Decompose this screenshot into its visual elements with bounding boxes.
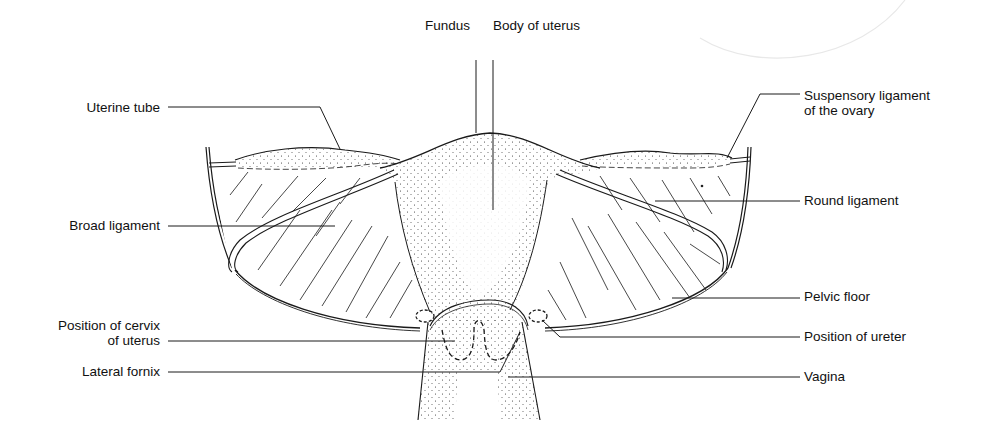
label-uterine-tube: Uterine tube — [86, 100, 160, 115]
label-round-ligament: Round ligament — [804, 193, 899, 208]
label-broad-ligament: Broad ligament — [69, 218, 160, 233]
ureter-right — [529, 310, 547, 322]
vagina — [418, 320, 540, 420]
pelvic-wall-right — [728, 147, 751, 268]
anatomy-diagram: Fundus Body of uterus Uterine tube Broad… — [0, 0, 992, 439]
label-position-of-ureter: Position of ureter — [804, 329, 906, 344]
label-lateral-fornix: Lateral fornix — [82, 364, 160, 379]
label-position-of-cervix-line2: of uterus — [107, 333, 160, 348]
label-position-of-cervix-line1: Position of cervix — [58, 318, 160, 333]
label-suspensory-ligament-line1: Suspensory ligament — [804, 88, 930, 103]
label-fundus: Fundus — [425, 18, 470, 33]
label-vagina: Vagina — [804, 369, 845, 384]
uterine-tube-left — [209, 148, 400, 170]
label-pelvic-floor: Pelvic floor — [804, 289, 870, 304]
uterine-tube-right — [580, 151, 750, 168]
faint-arc — [700, 0, 905, 58]
label-body-of-uterus: Body of uterus — [493, 18, 580, 33]
label-suspensory-ligament-line2: of the ovary — [804, 103, 875, 118]
